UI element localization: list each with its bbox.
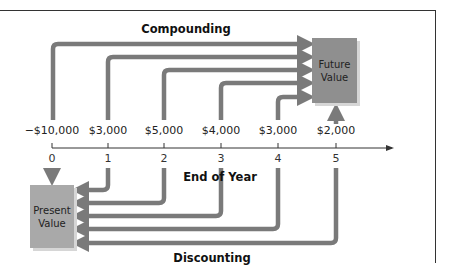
- cash-flow-amount-5: $2,000: [317, 124, 356, 137]
- axis-label: End of Year: [183, 170, 257, 184]
- year-label-5: 5: [333, 152, 340, 165]
- timeline-axis: [52, 143, 392, 148]
- future-value-box: FutureValue: [312, 38, 357, 103]
- cash-flow-amount-0: −$10,000: [25, 124, 80, 137]
- cash-flow-amount-2: $5,000: [145, 124, 184, 137]
- discounting-title: Discounting: [173, 251, 250, 265]
- compounding-arrows: [53, 44, 336, 124]
- future-value-label-2: Value: [319, 71, 351, 84]
- future-value-label-1: Future: [319, 58, 351, 71]
- year-label-4: 4: [275, 152, 282, 165]
- cash-flow-amount-1: $3,000: [89, 124, 128, 137]
- present-value-label-1: Present: [33, 204, 71, 217]
- year-label-2: 2: [161, 152, 168, 165]
- cash-flow-amount-4: $3,000: [259, 124, 298, 137]
- present-value-box: PresentValue: [30, 185, 74, 248]
- cash-flow-amount-3: $4,000: [202, 124, 241, 137]
- year-label-1: 1: [105, 152, 112, 165]
- year-label-3: 3: [218, 152, 225, 165]
- present-value-label-2: Value: [33, 217, 71, 230]
- year-label-0: 0: [49, 152, 56, 165]
